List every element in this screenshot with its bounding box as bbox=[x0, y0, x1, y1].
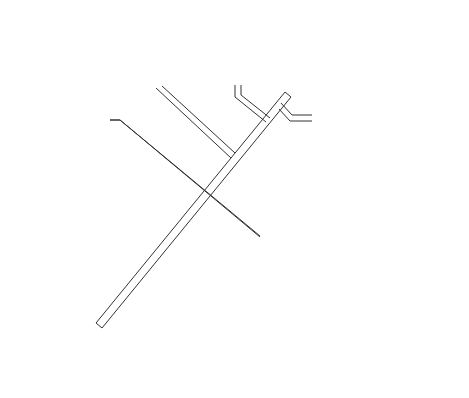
small-host-gateway-link bbox=[110, 120, 260, 237]
communications-bus bbox=[96, 92, 291, 328]
terminal-top-link bbox=[156, 86, 235, 158]
satellite-link bbox=[279, 103, 312, 121]
network-diagram bbox=[0, 0, 469, 398]
